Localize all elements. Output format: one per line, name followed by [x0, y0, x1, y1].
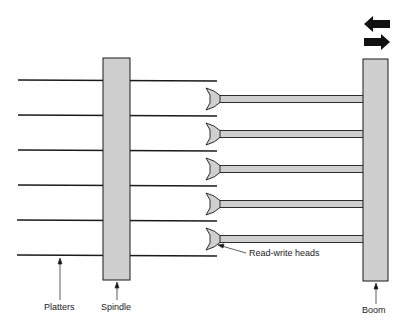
platters-label: Platters	[44, 302, 75, 312]
head-arm-1	[206, 88, 364, 110]
spindle	[103, 58, 130, 280]
spindle-label: Spindle	[101, 302, 131, 312]
arrow-right-icon	[364, 34, 390, 50]
read-write-head-4	[206, 193, 220, 215]
head-arms	[206, 88, 364, 250]
boom	[363, 59, 388, 281]
read-write-heads-label: Read-write heads	[249, 248, 320, 258]
head-arm-3	[206, 158, 364, 180]
head-arm-4	[206, 193, 364, 215]
arrow-left-icon	[364, 16, 390, 32]
pointer-arrowhead-icon	[58, 258, 62, 264]
pointer-arrowhead-icon	[374, 283, 378, 289]
head-arm-5	[206, 228, 364, 250]
pointer-arrowhead-icon	[218, 244, 224, 248]
read-write-head-1	[206, 88, 220, 110]
read-write-head-2	[206, 123, 220, 145]
boom-label: Boom	[362, 305, 386, 315]
disk-drive-diagram	[0, 0, 406, 328]
pointer-arrowhead-icon	[115, 282, 119, 288]
read-write-head-5	[206, 228, 220, 250]
head-arm-2	[206, 123, 364, 145]
read-write-head-3	[206, 158, 220, 180]
